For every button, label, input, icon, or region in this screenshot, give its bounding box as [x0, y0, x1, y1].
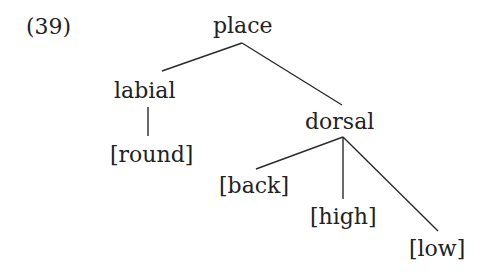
node-round: [round] — [110, 144, 193, 166]
edge-place-labial — [162, 43, 242, 71]
edge-dorsal-back — [256, 137, 343, 169]
node-dorsal: dorsal — [305, 111, 374, 133]
node-back: [back] — [219, 175, 289, 197]
node-low: [low] — [409, 238, 465, 260]
edge-place-dorsal — [242, 43, 342, 105]
node-high: [high] — [310, 206, 377, 228]
example-number: (39) — [26, 16, 71, 38]
node-labial: labial — [114, 80, 175, 102]
node-place: place — [213, 15, 273, 37]
